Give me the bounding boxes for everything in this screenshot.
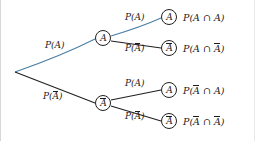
outcome-label-a-a: P(A ∩ A) [183, 13, 225, 23]
branch-label-a-upper: P(A) [125, 13, 145, 22]
branch-label-abar-lower: P(A) [125, 112, 145, 121]
node-label-aa: A [165, 13, 174, 22]
outcome-label-abar-a: P(A ∩ A) [183, 86, 225, 96]
probability-tree-figure: A A A A A A P(A) P(A) P(A) P(A) P(A) P(A… [0, 0, 255, 141]
outcome-label-abar-abar: P(A ∩ A) [183, 117, 225, 127]
branch-abar-to-a [111, 90, 161, 100]
branch-label-root-upper: P(A) [45, 41, 65, 50]
outcome-label-a-abar: P(A ∩ A) [183, 44, 225, 54]
branch-label-a-lower: P(A) [125, 44, 145, 53]
node-label-abarabar: A [165, 117, 174, 126]
node-label-abar: A [99, 99, 108, 108]
node-label-a: A [99, 34, 108, 43]
branch-label-abar-upper: P(A) [125, 79, 145, 88]
node-label-aabar: A [165, 44, 174, 53]
node-label-abara: A [165, 86, 174, 95]
branch-label-root-lower: P(A) [43, 92, 63, 101]
